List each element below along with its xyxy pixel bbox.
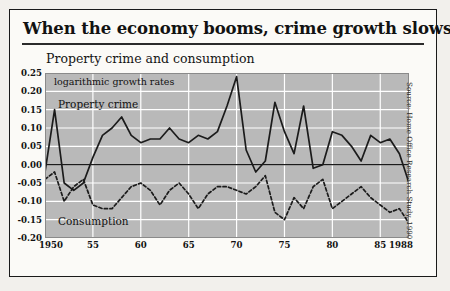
x-axis-tick-label: 65: [183, 240, 195, 250]
chart-card: When the economy booms, crime growth slo…: [9, 9, 437, 277]
x-axis-tick-label: 70: [231, 240, 243, 250]
x-axis-tick-label: 75: [278, 240, 290, 250]
y-axis-tick-label: 0.00: [21, 160, 42, 170]
source-note: Source: Home Office Research Study, 1990: [405, 82, 414, 239]
x-axis-tick-label: 60: [135, 240, 147, 250]
series-label-property-crime: Property crime: [58, 98, 138, 110]
x-axis-tick-label: 55: [87, 240, 99, 250]
x-axis-tick-label: 1988: [389, 240, 413, 250]
log-rates-note: logarithmic growth rates: [54, 76, 174, 87]
y-axis-tick-label: 0.25: [21, 68, 42, 78]
y-axis-tick-label: 0.05: [21, 141, 42, 151]
x-axis-tick-label: 80: [326, 240, 338, 250]
y-axis-tick-label: -0.15: [18, 215, 43, 225]
y-axis: 0.250.200.150.100.050.00-0.05-0.10-0.15-…: [10, 73, 42, 238]
x-axis: 1950556065707580851988: [45, 240, 409, 256]
series-line-property-crime: [45, 77, 409, 191]
y-axis-tick-label: -0.05: [18, 178, 43, 188]
x-axis-tick-label: 1950: [39, 240, 63, 250]
y-axis-tick-label: 0.10: [21, 123, 42, 133]
y-axis-tick-label: 0.20: [21, 86, 42, 96]
y-axis-tick-label: 0.15: [21, 105, 42, 115]
x-axis-tick-label: 85: [374, 240, 386, 250]
chart-plot: 0.250.200.150.100.050.00-0.05-0.10-0.15-…: [10, 10, 438, 278]
series-label-consumption: Consumption: [58, 215, 129, 227]
screenshot-root: When the economy booms, crime growth slo…: [0, 0, 450, 291]
y-axis-tick-label: -0.10: [18, 196, 43, 206]
